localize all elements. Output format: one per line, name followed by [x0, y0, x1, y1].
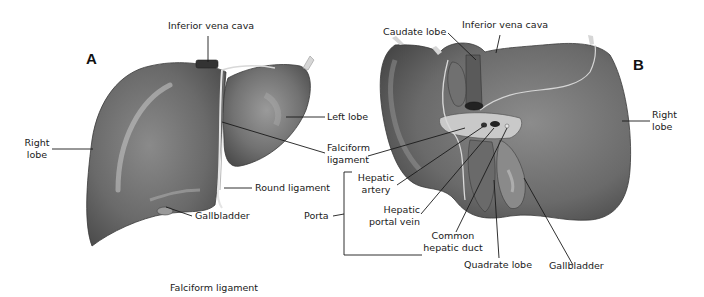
label-b-caudate-lobe: Caudate lobe — [383, 26, 446, 38]
liver-anatomy-figure: A B Inferior vena cava Right lobe Left l… — [0, 0, 704, 297]
label-b-gallbladder: Gallbladder — [549, 260, 604, 272]
panel-b-liver — [380, 35, 630, 220]
label-b-hepatic-portal-vein: Hepatic portal vein — [368, 204, 420, 228]
caption-falciform-ligament: Falciform ligament — [170, 282, 258, 294]
label-b-inferior-vena-cava: Inferior vena cava — [462, 19, 548, 31]
label-a-gallbladder: Gallbladder — [195, 210, 250, 222]
label-b-hepatic-artery: Hepatic artery — [356, 172, 396, 196]
label-b-quadrate-lobe: Quadrate lobe — [464, 259, 532, 271]
panel-letter-b: B — [633, 56, 644, 73]
label-a-left-lobe: Left lobe — [327, 111, 368, 123]
panel-letter-a: A — [86, 50, 97, 67]
label-a-right-lobe: Right lobe — [22, 137, 52, 161]
label-a-round-ligament: Round ligament — [255, 182, 330, 194]
label-b-porta: Porta — [304, 210, 329, 222]
label-b-common-hepatic-duct: Common hepatic duct — [422, 230, 484, 254]
label-a-falciform-ligament: Falciform ligament — [327, 142, 370, 166]
label-b-right-lobe: Right lobe — [652, 109, 677, 133]
label-a-inferior-vena-cava: Inferior vena cava — [168, 20, 254, 32]
